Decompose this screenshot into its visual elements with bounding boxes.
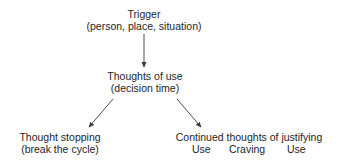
thought-stopping-subtitle: (break the cycle)	[10, 144, 110, 156]
arrow-thoughts-to-stopping	[89, 99, 113, 127]
trigger-title: Trigger	[74, 9, 214, 21]
cycle-item-use-2: Use	[287, 144, 306, 156]
cycle-item-craving: Craving	[229, 144, 265, 156]
thoughts-of-use-title: Thoughts of use	[95, 71, 195, 83]
node-thought-stopping: Thought stopping (break the cycle)	[10, 132, 110, 155]
arrow-thoughts-to-continued	[177, 99, 201, 127]
node-continued-thoughts: Continued thoughts of justifying Use Cra…	[172, 132, 326, 155]
continued-thoughts-title: Continued thoughts of justifying	[172, 132, 326, 144]
node-thoughts-of-use: Thoughts of use (decision time)	[95, 71, 195, 94]
trigger-subtitle: (person, place, situation)	[74, 21, 214, 33]
cycle-item-use-1: Use	[192, 144, 211, 156]
node-trigger: Trigger (person, place, situation)	[74, 9, 214, 32]
thought-stopping-title: Thought stopping	[10, 132, 110, 144]
thoughts-of-use-subtitle: (decision time)	[95, 83, 195, 95]
cycle-items-row: Use Craving Use	[172, 144, 326, 156]
